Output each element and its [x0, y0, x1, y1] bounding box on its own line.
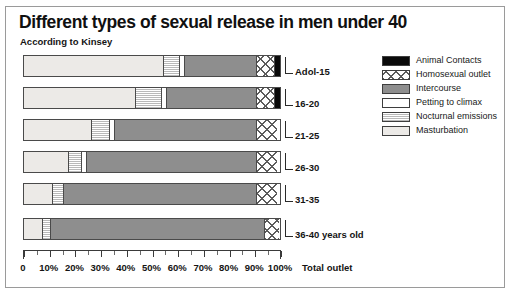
bar-segment-nocturnal [135, 88, 161, 108]
row-label-bracket [285, 121, 293, 138]
legend-item[interactable]: Homosexual outlet [382, 69, 502, 83]
row-label-bracket [285, 185, 293, 202]
row-label-bracket [285, 89, 293, 106]
bar-segment-animal [274, 88, 281, 108]
x-axis-tick-label: 0 [20, 262, 25, 273]
legend-swatch-animal [382, 56, 410, 66]
legend-swatch-nocturnal [382, 112, 410, 122]
bar-segment-homosexual [256, 56, 274, 76]
bar-segment-homosexual [264, 219, 279, 239]
x-axis-tick [101, 251, 102, 257]
row-label-bracket [285, 57, 293, 74]
row-label-bracket [285, 220, 293, 237]
bar-segment-nocturnal [91, 120, 109, 140]
bar-row [23, 119, 281, 141]
plot-area [23, 51, 281, 243]
bar-segment-masturbation [24, 56, 163, 76]
x-axis-tick [24, 251, 25, 257]
legend-swatch-masturbation [382, 126, 410, 136]
x-axis-tick-label: 90% [245, 262, 264, 273]
x-axis-tick-minor [88, 251, 89, 255]
legend-label: Petting to climax [416, 97, 482, 107]
x-axis-tick-minor [37, 251, 38, 255]
x-axis-tick [204, 251, 205, 257]
x-axis-tick [255, 251, 256, 257]
bar-segment-nocturnal [42, 219, 50, 239]
stacked-bar[interactable] [23, 119, 281, 141]
x-axis-tick-minor [217, 251, 218, 255]
stacked-bar[interactable] [23, 87, 281, 109]
x-axis-tick [153, 251, 154, 257]
legend-item[interactable]: Masturbation [382, 125, 502, 139]
x-axis [23, 250, 281, 259]
bar-segment-intercourse [63, 184, 257, 204]
x-axis-tick-label: 70% [193, 262, 212, 273]
bar-row [23, 87, 281, 109]
x-axis-tick-minor [63, 251, 64, 255]
bar-row [23, 218, 281, 240]
x-axis-tick-minor [165, 251, 166, 255]
x-axis-tick-minor [242, 251, 243, 255]
bar-segment-intercourse [86, 152, 256, 172]
legend-item[interactable]: Animal Contacts [382, 55, 502, 69]
x-axis-tick-label: 100% [268, 262, 292, 273]
bar-segment-homosexual [256, 120, 277, 140]
bar-segment-homosexual [256, 152, 277, 172]
chart-subtitle: According to Kinsey [20, 36, 112, 47]
stacked-bar[interactable] [23, 183, 281, 205]
bar-segment-intercourse [114, 120, 256, 140]
legend-label: Homosexual outlet [416, 69, 491, 79]
stacked-bar[interactable] [23, 55, 281, 77]
chart-title: Different types of sexual release in men… [19, 12, 407, 33]
bar-category-label: 31-35 [295, 194, 319, 205]
x-axis-tick [127, 251, 128, 257]
bar-segment-masturbation [24, 88, 135, 108]
stacked-bar[interactable] [23, 151, 281, 173]
bar-segment-intercourse [184, 56, 256, 76]
chart-legend: Animal ContactsHomosexual outletIntercou… [382, 55, 502, 139]
bar-segment-masturbation [24, 184, 52, 204]
x-axis-tick [50, 251, 51, 257]
chart-figure: Different types of sexual release in men… [5, 6, 505, 288]
x-axis-tick-minor [191, 251, 192, 255]
bar-segment-masturbation [24, 120, 91, 140]
x-axis-tick [281, 251, 282, 257]
legend-label: Intercourse [416, 83, 461, 93]
legend-item[interactable]: Petting to climax [382, 97, 502, 111]
bar-row [23, 55, 281, 77]
x-axis-tick-label: 80% [219, 262, 238, 273]
bar-segment-intercourse [50, 219, 264, 239]
bar-segment-nocturnal [52, 184, 62, 204]
row-label-bracket [285, 153, 293, 170]
x-axis-tick-label: 50% [142, 262, 161, 273]
x-axis-tick-minor [140, 251, 141, 255]
bar-segment-nocturnal [68, 152, 81, 172]
x-axis-tick [230, 251, 231, 257]
bar-segment-homosexual [256, 184, 277, 204]
x-axis-tick-label: 10% [39, 262, 58, 273]
legend-item[interactable]: Nocturnal emissions [382, 111, 502, 125]
bar-category-label: 36-40 years old [295, 229, 364, 240]
stacked-bar[interactable] [23, 218, 281, 240]
bar-category-label: 16-20 [295, 98, 319, 109]
legend-item[interactable]: Intercourse [382, 83, 502, 97]
x-axis-tick-minor [268, 251, 269, 255]
x-axis-tick [178, 251, 179, 257]
bar-category-label: 21-25 [295, 130, 319, 141]
bar-row [23, 151, 281, 173]
x-axis-tick-label: 30% [91, 262, 110, 273]
bar-segment-nocturnal [163, 56, 178, 76]
x-axis-label: Total outlet [302, 262, 352, 273]
x-axis-tick-label: 60% [168, 262, 187, 273]
x-axis-tick-minor [114, 251, 115, 255]
legend-label: Animal Contacts [416, 55, 482, 65]
bar-segment-homosexual [256, 88, 274, 108]
x-axis-tick [75, 251, 76, 257]
bar-category-label: 26-30 [295, 162, 319, 173]
bar-row [23, 183, 281, 205]
legend-swatch-homosexual [382, 70, 410, 80]
legend-label: Masturbation [416, 125, 468, 135]
x-axis-tick-label: 40% [116, 262, 135, 273]
x-axis-tick-label: 20% [65, 262, 84, 273]
bar-segment-masturbation [24, 219, 42, 239]
